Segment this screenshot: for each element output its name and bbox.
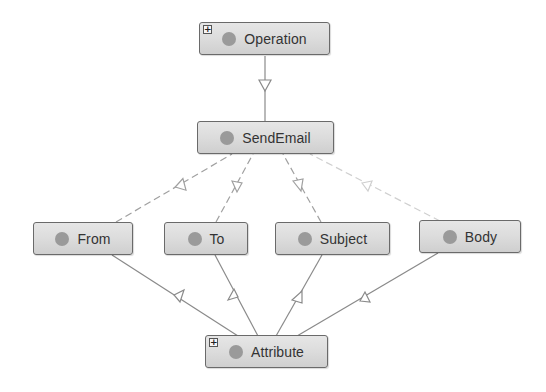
class-dot-icon: [229, 345, 243, 359]
node-label: Subject: [320, 231, 367, 247]
node-label: Attribute: [251, 344, 304, 360]
expand-plus-icon[interactable]: +: [203, 25, 212, 34]
class-dot-icon: [443, 230, 457, 244]
edge-to-sendemail: [216, 154, 253, 222]
node-to[interactable]: To: [164, 222, 248, 255]
node-label: To: [210, 231, 225, 247]
hollow-triangle-arrow-icon: [292, 291, 302, 303]
hollow-triangle-arrow-icon: [259, 80, 271, 91]
class-dot-icon: [188, 232, 202, 246]
hollow-triangle-arrow-icon: [174, 178, 186, 192]
node-operation[interactable]: + Operation: [199, 22, 330, 55]
node-label: Operation: [244, 31, 306, 47]
edge-subject-sendemail: [283, 154, 321, 222]
node-label: SendEmail: [242, 130, 311, 146]
edge-from-sendemail: [116, 154, 232, 222]
edge-attribute-subject: [276, 255, 322, 336]
class-dot-icon: [298, 232, 312, 246]
node-label: Body: [465, 229, 497, 245]
edge-sendemail-operation: [259, 56, 271, 121]
class-dot-icon: [222, 32, 236, 46]
node-subject[interactable]: Subject: [275, 222, 390, 255]
class-dot-icon: [55, 232, 69, 246]
edge-attribute-from: [112, 255, 238, 336]
edge-attribute-to: [215, 255, 258, 336]
diagram-edges: [0, 0, 546, 392]
node-sendemail[interactable]: SendEmail: [197, 121, 334, 154]
node-from[interactable]: From: [33, 222, 133, 255]
diagram-canvas: + Operation SendEmail From To Subject Bo…: [0, 0, 546, 392]
node-label: From: [77, 231, 110, 247]
node-body[interactable]: Body: [419, 220, 521, 253]
hollow-triangle-arrow-icon: [228, 289, 238, 300]
edge-body-sendemail: [310, 154, 440, 221]
hollow-triangle-arrow-icon: [362, 181, 372, 191]
edge-attribute-body: [297, 253, 438, 336]
expand-plus-icon[interactable]: +: [209, 338, 218, 347]
class-dot-icon: [220, 131, 234, 145]
hollow-triangle-arrow-icon: [293, 179, 303, 191]
node-attribute[interactable]: + Attribute: [205, 335, 328, 368]
